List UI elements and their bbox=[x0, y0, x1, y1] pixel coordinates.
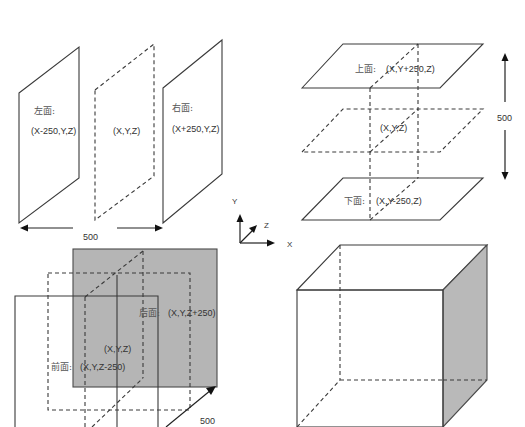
x-axis-faces-panel: 左面: (X-250,Y,Z) (X,Y,Z) 右面: (X+250,Y,Z) … bbox=[19, 40, 222, 242]
y-dimension-label: 500 bbox=[497, 113, 512, 123]
left-face-name: 左面: bbox=[34, 105, 55, 116]
z-axis-faces-panel: 后面: (X,Y,Z+250) (X,Y,Z) 前面: (X,Y,Z-250) … bbox=[15, 249, 217, 427]
y-dimension-arrow: 500 bbox=[497, 53, 512, 180]
back-face-coords: (X,Y,Z+250) bbox=[168, 308, 216, 318]
y-axis-arrow-icon bbox=[237, 214, 244, 222]
x-dimension-arrow: 500 bbox=[20, 225, 163, 243]
center-coords-y: (X,Y,Z) bbox=[380, 123, 407, 133]
front-face-coords: (X,Y,Z-250) bbox=[80, 362, 125, 372]
top-face-coords: (X,Y+250,Z) bbox=[386, 64, 435, 74]
z-dimension-label: 500 bbox=[200, 416, 215, 426]
center-coords-z: (X,Y,Z) bbox=[104, 344, 131, 354]
x-dimension-label: 500 bbox=[83, 232, 98, 242]
cube-panel bbox=[297, 245, 487, 427]
cube-front-face bbox=[297, 290, 443, 427]
axis-indicator: Y Z X bbox=[232, 197, 293, 249]
right-face-coords: (X+250,Y,Z) bbox=[172, 124, 220, 134]
center-coords-x: (X,Y,Z) bbox=[113, 126, 140, 136]
top-face-name: 上面: bbox=[355, 64, 376, 74]
front-face-name: 前面: bbox=[51, 361, 72, 372]
x-axis-arrow-icon bbox=[267, 240, 275, 247]
left-face-coords: (X-250,Y,Z) bbox=[31, 126, 76, 136]
x-axis-label: X bbox=[287, 240, 293, 249]
bottom-face-name: 下面: bbox=[344, 196, 365, 206]
z-axis-label: Z bbox=[264, 221, 269, 230]
back-face-name: 后面: bbox=[139, 308, 160, 318]
cube-faces-diagram: 左面: (X-250,Y,Z) (X,Y,Z) 右面: (X+250,Y,Z) … bbox=[0, 0, 525, 427]
bottom-face-coords: (X,Y-250,Z) bbox=[376, 196, 422, 206]
cube-right-face bbox=[443, 245, 487, 427]
y-axis-faces-panel: 上面: (X,Y+250,Z) (X,Y,Z) 下面: (X,Y-250,Z) … bbox=[302, 44, 512, 220]
z-axis-arrow-icon bbox=[249, 225, 257, 233]
right-face-name: 右面: bbox=[172, 102, 193, 113]
y-axis-label: Y bbox=[232, 197, 238, 206]
z-dimension-arrow: 500 bbox=[166, 386, 216, 427]
